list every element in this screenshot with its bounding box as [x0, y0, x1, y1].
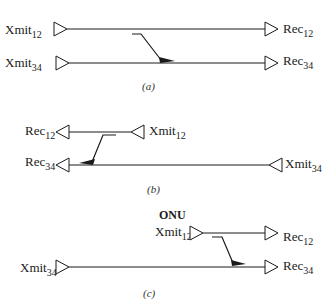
rec12-receiver-icon — [265, 22, 278, 36]
crosstalk-arrowhead-icon — [79, 159, 95, 165]
xmit12-transmitter-icon — [54, 22, 67, 36]
rec12-receiver-icon — [265, 226, 278, 240]
rec12-label: Rec12 — [283, 229, 313, 247]
xmit12-label: Xmit12 — [149, 123, 186, 141]
panel-a: Xmit12 Rec12 Xmit34 Rec34 (a) — [5, 21, 313, 93]
crosstalk-arrowhead-icon — [231, 260, 246, 266]
xmit34-label: Xmit34 — [5, 55, 42, 73]
rec34-label: Rec34 — [283, 258, 313, 276]
crosstalk-path — [92, 135, 116, 162]
rec34-label: Rec34 — [25, 154, 55, 172]
xmit34-transmitter-icon — [56, 56, 69, 70]
onu-label: ONU — [159, 208, 186, 222]
rec12-label: Rec12 — [283, 21, 313, 39]
xmit12-transmitter-icon — [131, 125, 144, 139]
rec34-receiver-icon — [265, 260, 278, 274]
panel-c: ONU Xmit12 Rec12 Xmit34 Rec34 (c) — [20, 208, 313, 300]
xmit34-transmitter-icon — [269, 158, 282, 172]
xmit34-label: Xmit34 — [20, 260, 57, 278]
rec34-label: Rec34 — [283, 53, 313, 71]
xmit12-transmitter-icon — [190, 226, 203, 240]
xmit12-label: Xmit12 — [155, 224, 192, 242]
panel-b: Rec12 Xmit12 Rec34 Xmit34 (b) — [25, 123, 322, 196]
rec12-receiver-icon — [56, 125, 69, 139]
caption-a: (a) — [142, 80, 155, 93]
caption-b: (b) — [147, 183, 160, 196]
xmit34-transmitter-icon — [56, 260, 69, 274]
crosstalk-diagram: Xmit12 Rec12 Xmit34 Rec34 (a) Rec12 Xmit… — [0, 0, 336, 303]
xmit12-label: Xmit12 — [5, 22, 42, 40]
crosstalk-path — [132, 34, 161, 60]
rec12-label: Rec12 — [25, 123, 55, 141]
rec34-receiver-icon — [56, 158, 69, 172]
caption-c: (c) — [143, 287, 156, 300]
xmit34-label: Xmit34 — [285, 156, 322, 174]
crosstalk-path — [212, 237, 233, 263]
crosstalk-arrowhead-icon — [159, 57, 175, 63]
rec34-receiver-icon — [265, 56, 278, 70]
